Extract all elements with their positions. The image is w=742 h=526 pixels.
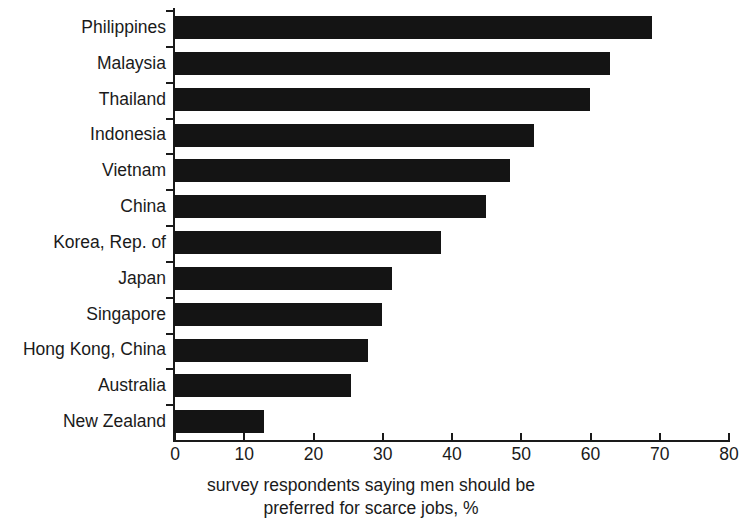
category-label: Malaysia bbox=[8, 55, 174, 73]
x-axis-tick bbox=[382, 433, 384, 442]
category-label: Indonesia bbox=[8, 126, 174, 144]
bar bbox=[174, 195, 486, 218]
x-axis-title-line1: survey respondents saying men should be bbox=[0, 474, 742, 497]
bar-row bbox=[174, 225, 728, 261]
bar bbox=[174, 339, 368, 362]
bar bbox=[174, 52, 610, 75]
bar-row bbox=[174, 297, 728, 333]
x-axis-tick bbox=[590, 433, 592, 442]
x-axis-title: survey respondents saying men should be … bbox=[0, 474, 742, 520]
category-label: Hong Kong, China bbox=[8, 341, 174, 359]
x-axis-tick-label: 30 bbox=[373, 446, 392, 464]
bar bbox=[174, 88, 590, 111]
category-label: Japan bbox=[8, 270, 174, 288]
x-axis-tick-label: 70 bbox=[650, 446, 669, 464]
y-axis-tick bbox=[166, 368, 174, 370]
y-axis-tick bbox=[166, 404, 174, 406]
category-label: Australia bbox=[8, 377, 174, 395]
bar-row bbox=[174, 46, 728, 82]
x-axis-tick-label: 10 bbox=[235, 446, 254, 464]
bar-row bbox=[174, 10, 728, 46]
y-axis-tick bbox=[166, 225, 174, 227]
y-axis-tick bbox=[166, 46, 174, 48]
y-axis-tick bbox=[166, 82, 174, 84]
y-axis-tick bbox=[166, 297, 174, 299]
y-axis-tick bbox=[166, 118, 174, 120]
plot-area bbox=[174, 10, 728, 440]
category-label: Korea, Rep. of bbox=[8, 234, 174, 252]
category-label: China bbox=[8, 198, 174, 216]
x-axis-tick bbox=[520, 433, 522, 442]
category-label: Thailand bbox=[8, 91, 174, 109]
bar bbox=[174, 374, 351, 397]
category-label: Singapore bbox=[8, 306, 174, 324]
bar-row bbox=[174, 333, 728, 369]
x-axis-tick-label: 80 bbox=[719, 446, 738, 464]
bar-row bbox=[174, 189, 728, 225]
x-axis-tick bbox=[174, 433, 176, 442]
x-axis-title-line2: preferred for scarce jobs, % bbox=[0, 497, 742, 520]
bar bbox=[174, 410, 264, 433]
bar bbox=[174, 267, 392, 290]
x-axis-tick bbox=[313, 433, 315, 442]
bar-chart: PhilippinesMalaysiaThailandIndonesiaViet… bbox=[0, 0, 742, 526]
category-label: Vietnam bbox=[8, 162, 174, 180]
x-axis-tick bbox=[659, 433, 661, 442]
x-axis-tick-label: 60 bbox=[581, 446, 600, 464]
x-axis-tick bbox=[243, 433, 245, 442]
bar-row bbox=[174, 368, 728, 404]
x-axis-tick bbox=[728, 433, 730, 442]
bar bbox=[174, 303, 382, 326]
y-axis-tick bbox=[166, 261, 174, 263]
bar-row bbox=[174, 82, 728, 118]
y-axis-tick bbox=[166, 333, 174, 335]
y-axis-tick bbox=[166, 153, 174, 155]
x-axis-tick-label: 0 bbox=[170, 446, 180, 464]
x-axis-tick-label: 20 bbox=[304, 446, 323, 464]
bar bbox=[174, 231, 441, 254]
bar bbox=[174, 159, 510, 182]
bar-row bbox=[174, 261, 728, 297]
x-axis-tick bbox=[451, 433, 453, 442]
x-axis-tick-label: 40 bbox=[442, 446, 461, 464]
y-axis-tick bbox=[166, 10, 174, 12]
y-axis-tick bbox=[166, 189, 174, 191]
x-axis-tick-label: 50 bbox=[512, 446, 531, 464]
bar-row bbox=[174, 118, 728, 154]
bar-row bbox=[174, 153, 728, 189]
category-label: New Zealand bbox=[8, 413, 174, 431]
category-axis-labels: PhilippinesMalaysiaThailandIndonesiaViet… bbox=[0, 10, 174, 440]
bar bbox=[174, 124, 534, 147]
category-label: Philippines bbox=[8, 19, 174, 37]
bar bbox=[174, 16, 652, 39]
